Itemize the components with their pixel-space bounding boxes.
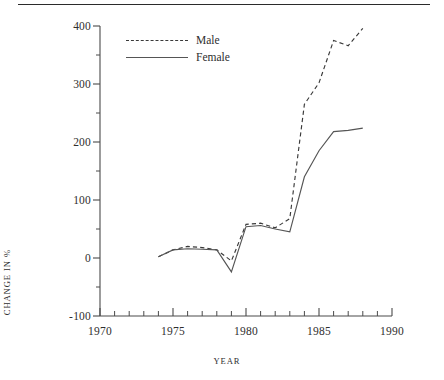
y-tick-label: 200 (50, 136, 91, 148)
y-tick-label: 100 (50, 194, 91, 206)
legend-entry-male: Male (126, 32, 266, 49)
chart-legend: Male Female (126, 32, 266, 66)
legend-label-female: Female (196, 49, 230, 65)
x-tick-label: 1990 (380, 325, 404, 337)
dashed-line-key (126, 40, 188, 41)
figure-page: 4003002001000-10019701975198019851990 YE… (0, 0, 444, 380)
legend-entry-female: Female (126, 49, 266, 66)
y-tick-label: -100 (50, 310, 91, 322)
y-tick-label: 400 (50, 20, 91, 32)
series-line-female (158, 128, 362, 272)
solid-line-key (126, 57, 188, 58)
y-axis-title: CHANGE IN % (2, 249, 12, 315)
x-tick-label: 1970 (88, 325, 112, 337)
legend-label-male: Male (196, 32, 220, 48)
line-chart-figure: 4003002001000-10019701975198019851990 YE… (0, 0, 444, 380)
y-tick-label: 0 (50, 252, 91, 264)
x-tick-label: 1980 (234, 325, 258, 337)
x-tick-label: 1985 (307, 325, 331, 337)
x-tick-label: 1975 (161, 325, 185, 337)
y-tick-label: 300 (50, 78, 91, 90)
x-axis-title: YEAR (214, 356, 241, 366)
